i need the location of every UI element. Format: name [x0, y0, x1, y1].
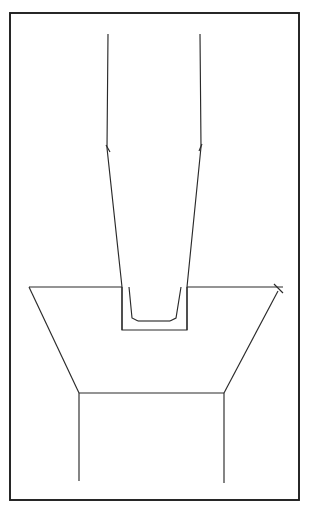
- outer-border-frame: [10, 13, 299, 500]
- figure-root: [0, 0, 311, 517]
- funnel-right-wall: [187, 34, 201, 330]
- funnel-left-wall: [107, 34, 122, 330]
- hopper-left-slope: [29, 287, 79, 393]
- x-cross-mark-icon: [274, 284, 283, 293]
- inner-taper-right-wall: [170, 287, 181, 321]
- hopper-right-slope: [224, 291, 278, 393]
- line-drawing-canvas: [0, 0, 311, 517]
- inner-taper-left-wall: [129, 287, 138, 321]
